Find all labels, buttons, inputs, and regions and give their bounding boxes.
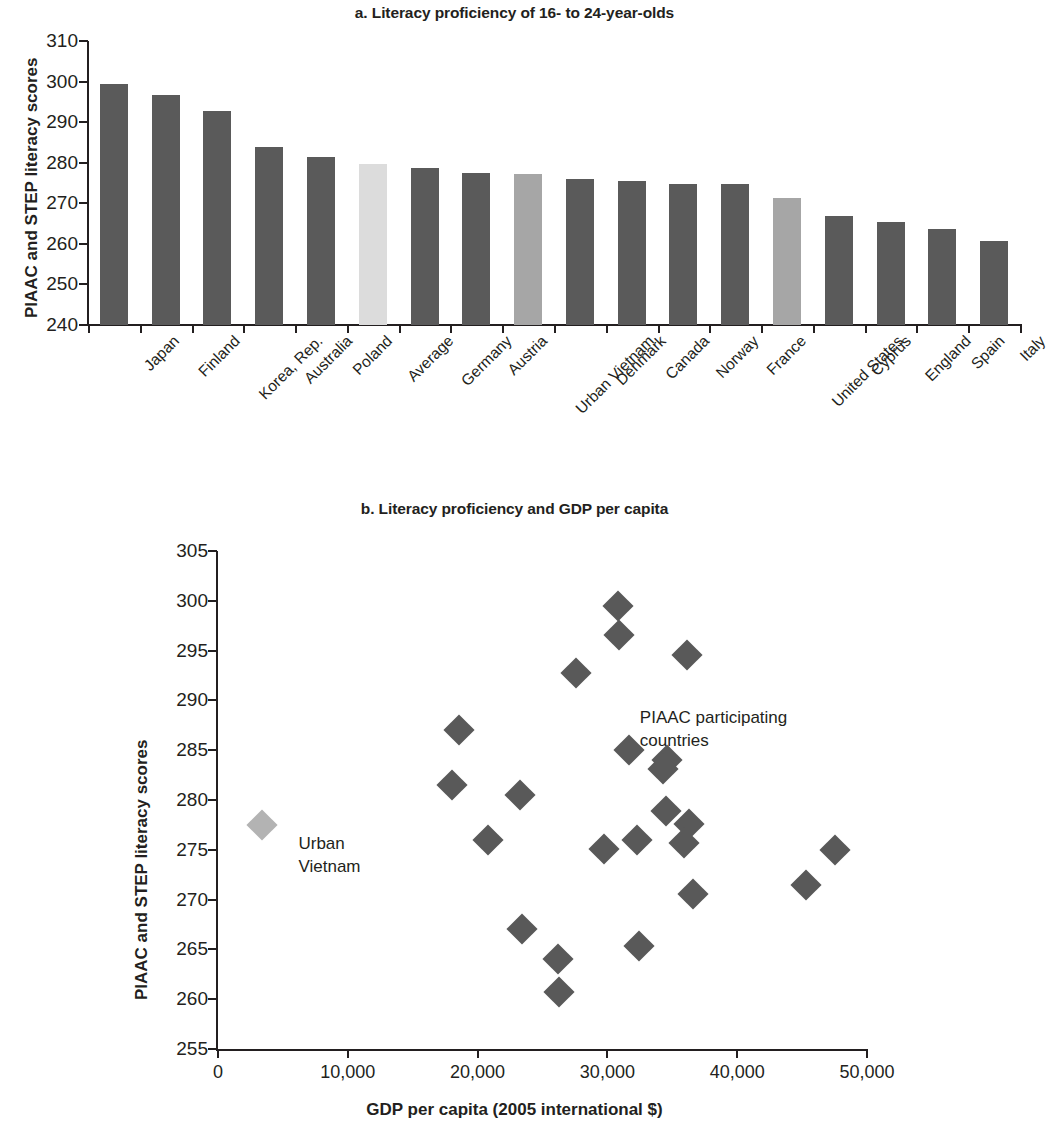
panel-a-y-tick-label: 250 [4,274,78,293]
bar-category-label: Poland [349,332,396,379]
scatter-point[interactable] [819,834,850,865]
panel-b-x-tick-label: 0 [213,1062,223,1083]
bar[interactable] [618,181,646,325]
panel-a-y-tick [79,162,88,164]
bar[interactable] [359,164,387,325]
panel-b-x-tick-label: 20,000 [450,1062,505,1083]
scatter-point[interactable] [472,824,503,855]
bar[interactable] [462,173,490,325]
panel-a-y-tick-label: 310 [4,31,78,50]
panel-b-x-tick [736,1049,738,1058]
panel-b-y-tick-label: 255 [140,1039,208,1058]
scatter-point[interactable] [622,824,653,855]
bar-category-label: Germany [457,332,515,390]
panel-b-y-tick-label: 285 [140,740,208,759]
bar-category-label: Japan [140,332,183,375]
bar[interactable] [514,174,542,325]
panel-b-y-tick-labels: 255260265270275280285290295300305 [130,470,208,1132]
bar-category-label: Austria [504,332,551,379]
panel-a-y-tick-label: 240 [4,315,78,334]
bar[interactable] [307,157,335,325]
bar-category-label: Average [404,332,457,385]
scatter-annotation: PIAAC participating countries [640,706,787,752]
panel-a-y-tick-label: 270 [4,193,78,212]
bar-category-label: Spain [968,332,1009,373]
scatter-point[interactable] [506,914,537,945]
panel-a-y-tick [79,283,88,285]
panel-a-plot-area [88,41,1020,325]
scatter-point[interactable] [623,931,654,962]
panel-b-y-tick [208,899,217,901]
bar-category-label: England [921,332,974,385]
bar[interactable] [877,222,905,325]
scatter-point[interactable] [444,715,475,746]
panel-b-y-tick-label: 280 [140,790,208,809]
panel-b-y-tick-label: 275 [140,840,208,859]
panel-b-y-tick [208,998,217,1000]
bar[interactable] [100,84,128,325]
bar[interactable] [411,168,439,325]
panel-b-y-tick [208,749,217,751]
bar[interactable] [203,111,231,325]
panel-a-y-tick [79,81,88,83]
panel-b-y-tick [208,550,217,552]
panel-b-x-tick-label: 50,000 [839,1062,894,1083]
bar[interactable] [773,198,801,325]
panel-b-plot-area: PIAAC participating countriesUrban Vietn… [218,551,867,1050]
panel-b-y-tick-label: 295 [140,641,208,660]
panel-b-x-tick-label: 30,000 [580,1062,635,1083]
panel-b-y-tick-label: 305 [140,541,208,560]
scatter-point[interactable] [247,809,278,840]
panel-b-y-tick [208,600,217,602]
bar[interactable] [566,179,594,325]
bar-chart-panel: a. Literacy proficiency of 16- to 24-yea… [0,0,1029,470]
panel-a-y-tick [79,324,88,326]
panel-b-y-tick [208,650,217,652]
bar-category-label: Norway [713,332,763,382]
bar-category-label: Finland [195,332,244,381]
panel-b-y-tick [208,1048,217,1050]
panel-b-y-tick-label: 300 [140,591,208,610]
scatter-point[interactable] [671,639,702,670]
scatter-point[interactable] [436,769,467,800]
panel-b-x-tick [606,1049,608,1058]
scatter-point[interactable] [790,869,821,900]
bar[interactable] [255,147,283,326]
scatter-point[interactable] [544,977,575,1008]
scatter-point[interactable] [602,590,633,621]
panel-b-x-tick [866,1049,868,1058]
scatter-point[interactable] [588,833,619,864]
panel-b-x-tick [217,1049,219,1058]
scatter-annotation: Urban Vietnam [298,832,360,878]
panel-a-y-tick [79,40,88,42]
panel-a-y-tick-label: 280 [4,153,78,172]
panel-a-y-tick-label: 300 [4,72,78,91]
panel-b-y-tick [208,948,217,950]
scatter-point[interactable] [543,944,574,975]
scatter-point[interactable] [505,779,536,810]
scatter-point[interactable] [561,657,592,688]
bar[interactable] [980,241,1008,325]
panel-b-y-tick-label: 290 [140,690,208,709]
bar-category-label: Italy [1016,332,1049,365]
bar[interactable] [721,184,749,325]
panel-a-y-tick-label: 260 [4,234,78,253]
bar[interactable] [152,95,180,325]
panel-b-x-tick-label: 10,000 [320,1062,375,1083]
panel-b-x-axis-label: GDP per capita (2005 international $) [0,1100,1029,1120]
panel-a-title: a. Literacy proficiency of 16- to 24-yea… [0,4,1029,22]
panel-a-y-tick [79,121,88,123]
panel-a-x-tick-labels: JapanFinlandKorea, Rep.AustraliaPolandAv… [88,332,1028,462]
bar[interactable] [669,184,697,325]
panel-b-x-tick [477,1049,479,1058]
panel-b-y-tick [208,699,217,701]
bar[interactable] [928,229,956,325]
bar-category-label: France [763,332,810,379]
bar-category-label: Canada [662,332,713,383]
panel-b-y-tick-label: 265 [140,939,208,958]
scatter-point[interactable] [678,878,709,909]
panel-b-y-tick [208,799,217,801]
bar[interactable] [825,216,853,325]
panel-a-y-tick [79,243,88,245]
scatter-point[interactable] [604,619,635,650]
